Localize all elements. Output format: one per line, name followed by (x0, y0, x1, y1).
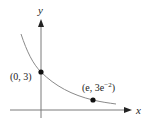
y-axis-label: y (37, 4, 43, 16)
point-e-label: (e, 3e−2) (82, 81, 115, 94)
exponential-decay-plot: x y (0, 3) (e, 3e−2) (0, 0, 145, 130)
point-0-3 (38, 69, 43, 74)
point-e-label-base: (e, 3e (82, 82, 105, 94)
point-e-3e-2 (90, 97, 95, 102)
figure: x y (0, 3) (e, 3e−2) (0, 0, 145, 130)
point-e-label-close: ) (112, 82, 115, 94)
y-axis-arrow-icon (38, 19, 44, 27)
x-axis-label: x (135, 104, 141, 116)
x-axis-arrow-icon (124, 107, 132, 113)
decay-curve (21, 34, 116, 104)
point-0-3-label: (0, 3) (10, 71, 32, 83)
